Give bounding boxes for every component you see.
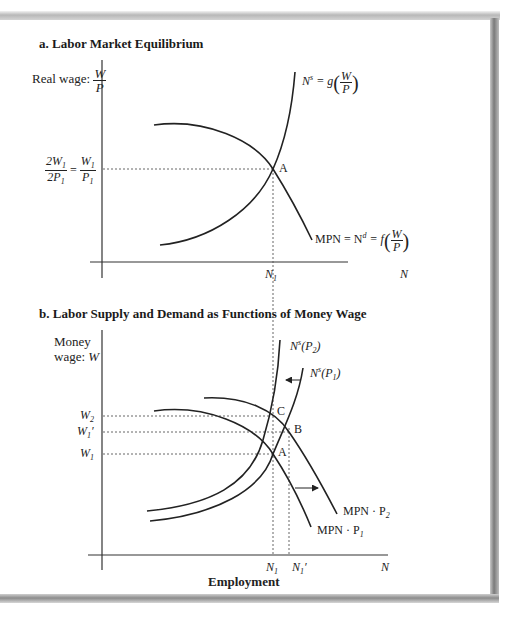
panel-b-demand-p1 — [154, 410, 311, 527]
panel-b-supply-p2 — [147, 340, 280, 511]
panel-b-supply-p2-label: Ns(P2) — [290, 339, 320, 355]
panel-b-supply-p1-label: Ns(P1) — [310, 366, 340, 382]
panel-b-x-axis-label: N — [381, 561, 389, 573]
panel-b-point-a: A — [278, 446, 287, 458]
panel-b-y-axis-label: Money wage: W — [54, 334, 99, 364]
panel-b-demand-p1-label: MPN · P1 — [317, 524, 364, 539]
panel-b: b. Labor Supply and Demand as Functions … — [0, 0, 516, 625]
panel-b-y-tick-w2: W2 — [80, 409, 94, 424]
panel-b-plot — [0, 0, 516, 625]
panel-b-x-tick-n1prime: N1′ — [292, 561, 307, 576]
panel-b-demand-p2-label: MPN · P2 — [343, 505, 390, 520]
panel-b-point-b: B — [294, 423, 302, 435]
panel-b-demand-p2 — [204, 398, 337, 514]
panel-b-y-tick-w1prime: W1′ — [77, 425, 94, 440]
panel-b-y-tick-w1: W1 — [80, 447, 94, 462]
panel-b-point-c: C — [277, 405, 285, 417]
panel-b-x-axis-title: Employment — [208, 575, 280, 588]
